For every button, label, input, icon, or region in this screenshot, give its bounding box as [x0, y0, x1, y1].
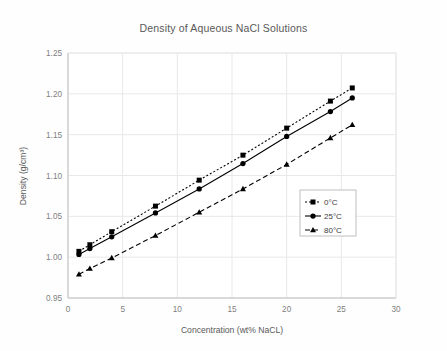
y-tick-label: 1.00 — [46, 253, 62, 262]
y-tick-label: 1.15 — [46, 131, 62, 140]
y-tick-label: 0.95 — [46, 294, 62, 303]
y-axis-title: Density (g/cm³) — [18, 147, 28, 205]
x-tick-label: 5 — [120, 305, 125, 314]
data-point-square — [240, 153, 245, 158]
x-tick-label: 10 — [173, 305, 183, 314]
data-point-square — [311, 200, 316, 205]
data-point-circle — [153, 210, 158, 215]
legend-label: 80°C — [324, 226, 342, 235]
x-axis-tick-labels: 051015202530 — [66, 305, 401, 314]
data-point-circle — [350, 95, 355, 100]
legend-label: 0°C — [324, 198, 338, 207]
data-point-square — [197, 178, 202, 183]
x-tick-label: 20 — [282, 305, 292, 314]
data-point-circle — [240, 161, 245, 166]
y-tick-label: 1.25 — [46, 49, 62, 58]
data-point-square — [109, 229, 114, 234]
y-axis-tick-labels: 0.951.001.051.101.151.201.25 — [46, 49, 62, 303]
data-point-circle — [197, 186, 202, 191]
y-tick-label: 1.10 — [46, 172, 62, 181]
chart-container: Density of Aqueous NaCl Solutions 0.951.… — [0, 0, 447, 351]
x-axis-title: Concentration (wt% NaCL) — [181, 325, 283, 335]
data-point-square — [350, 85, 355, 90]
data-point-square — [284, 126, 289, 131]
chart-legend: 0°C25°C80°C — [300, 190, 356, 236]
data-point-circle — [87, 246, 92, 251]
data-point-square — [153, 204, 158, 209]
data-point-circle — [328, 109, 333, 114]
y-tick-label: 1.05 — [46, 212, 62, 221]
data-point-square — [328, 99, 333, 104]
x-tick-label: 25 — [337, 305, 347, 314]
legend-label: 25°C — [324, 212, 342, 221]
x-tick-label: 15 — [227, 305, 237, 314]
data-point-circle — [109, 234, 114, 239]
data-point-circle — [310, 213, 315, 218]
data-point-circle — [284, 134, 289, 139]
x-tick-label: 0 — [66, 305, 71, 314]
data-point-circle — [76, 252, 81, 257]
x-tick-label: 30 — [391, 305, 401, 314]
chart-plot-svg: 0.951.001.051.101.151.201.25 05101520253… — [0, 0, 447, 351]
y-tick-label: 1.20 — [46, 90, 62, 99]
